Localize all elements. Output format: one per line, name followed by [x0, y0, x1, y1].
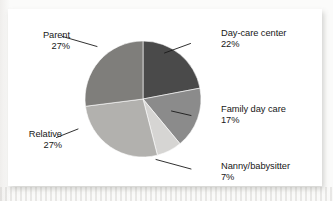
pie-label-family-day-care-value: 17% [221, 115, 286, 126]
pie-label-relative-value: 27% [10, 140, 62, 151]
pie-label-parent-value: 27% [18, 41, 70, 52]
pie-slice-parent[interactable] [85, 41, 143, 106]
pie-label-parent-name: Parent [18, 30, 70, 41]
pie-label-relative: Relative 27% [10, 129, 62, 152]
pie-label-nanny-babysitter: Nanny/babysitter 7% [221, 161, 290, 184]
pie-chart-panel: Day-care center 22% Family day care 17% … [8, 9, 322, 186]
page-edge-texture-bottom [0, 187, 333, 201]
pie-label-parent: Parent 27% [18, 30, 70, 53]
pie-label-day-care-center-value: 22% [221, 39, 286, 50]
pie-label-relative-name: Relative [10, 129, 62, 140]
page-root: Day-care center 22% Family day care 17% … [0, 0, 333, 201]
pie-label-nanny-babysitter-name: Nanny/babysitter [221, 161, 290, 172]
pie-label-family-day-care: Family day care 17% [221, 104, 286, 127]
pie-label-nanny-babysitter-value: 7% [221, 172, 290, 183]
pie-label-day-care-center: Day-care center 22% [221, 28, 286, 51]
pie-label-day-care-center-name: Day-care center [221, 28, 286, 39]
leader-line-nanny-babysitter [156, 160, 191, 170]
pie-label-family-day-care-name: Family day care [221, 104, 286, 115]
pie-slice-group [85, 41, 201, 157]
